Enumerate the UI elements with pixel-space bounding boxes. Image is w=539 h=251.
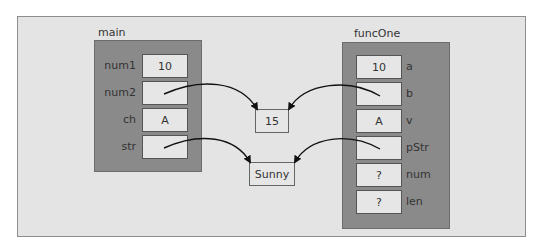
funcone-var-name: pStr [406, 141, 429, 154]
main-var-name: num1 [96, 59, 136, 72]
funcone-var-name: a [406, 60, 413, 73]
heap-string-box: Sunny [249, 162, 295, 186]
main-var-name: num2 [96, 86, 136, 99]
main-frame-label: main [98, 26, 125, 39]
funcone-var-name: num [406, 168, 431, 181]
funcone-frame-label: funcOne [354, 27, 400, 40]
main-var-cell: 10 [142, 54, 188, 78]
main-var-cell [142, 135, 188, 159]
main-var-cell: A [142, 108, 188, 132]
funcone-var-cell [356, 82, 402, 106]
heap-int-box: 15 [255, 109, 289, 133]
funcone-var-cell [356, 136, 402, 160]
funcone-var-name: len [406, 195, 423, 208]
funcone-var-name: v [406, 114, 413, 127]
funcone-var-cell: 10 [356, 55, 402, 79]
funcone-var-name: b [406, 87, 413, 100]
funcone-var-cell: ? [356, 163, 402, 187]
funcone-var-cell: ? [356, 190, 402, 214]
funcone-var-cell: A [356, 109, 402, 133]
main-var-name: ch [96, 113, 136, 126]
main-var-name: str [96, 140, 136, 153]
main-var-cell [142, 81, 188, 105]
